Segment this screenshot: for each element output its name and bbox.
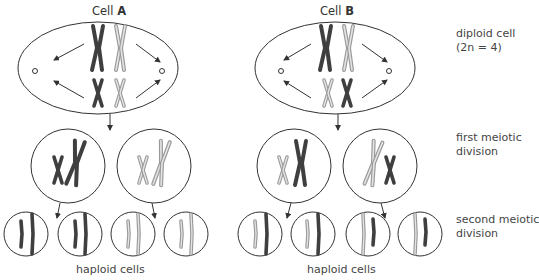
cell-b-haploid-4 (398, 212, 442, 256)
second-division-label: second meiotic division (456, 213, 539, 241)
cell-a-haploid-1 (4, 212, 48, 256)
first-label-line1: first meiotic (456, 131, 522, 145)
cell-b-first-division-right (343, 129, 417, 203)
cell-b-first-division-left (257, 129, 331, 203)
second-label-line1: second meiotic (456, 213, 539, 227)
cell-b-diploid (255, 22, 415, 114)
cell-a-first-division-right (117, 129, 191, 203)
cell-a-prefix: Cell (92, 4, 114, 18)
cell-a-haploid-3 (111, 212, 155, 256)
first-label-line2: division (456, 145, 522, 159)
cell-b-haploid-2 (291, 212, 335, 256)
second-label-line2: division (456, 227, 539, 241)
cell-b-letter: B (345, 4, 354, 18)
cell-a-letter: A (117, 4, 126, 18)
cell-a-haploid-2 (58, 212, 102, 256)
cell-b-prefix: Cell (320, 4, 342, 18)
first-division-label: first meiotic division (456, 131, 522, 159)
diploid-cell-label: diploid cell (2n = 4) (456, 27, 515, 55)
cell-a-haploid-4 (164, 212, 208, 256)
cell-a-diploid (18, 22, 178, 114)
diploid-label-line1: diploid cell (456, 27, 515, 41)
cell-b-haploid-1 (238, 212, 282, 256)
cell-b-title: Cell B (320, 4, 354, 18)
cell-a-first-division-left (31, 129, 105, 203)
cell-b-haploid-3 (346, 212, 390, 256)
haploid-cells-label-b: haploid cells (307, 263, 376, 277)
diploid-label-line2: (2n = 4) (456, 41, 515, 55)
haploid-cells-label-a: haploid cells (76, 263, 145, 277)
cell-a-title: Cell A (92, 4, 126, 18)
